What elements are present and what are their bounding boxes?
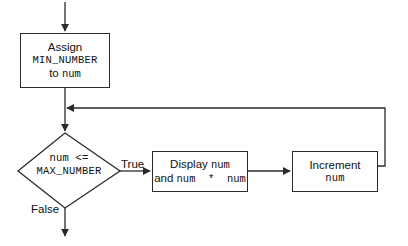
node-assign: Assign MIN_NUMBER to num [20,33,110,88]
node-increment: Increment num [292,151,378,192]
node-display-line2-mono: num * num [177,173,246,185]
edge-label-false: False [31,203,59,215]
decision-diamond [18,133,120,208]
node-assign-line2: MIN_NUMBER [32,54,97,66]
node-display-line1-mono: num [211,159,230,171]
node-display-line1-prefix: Display [170,158,211,170]
node-display: Display num and num * num [152,151,248,192]
node-display-line1: Display num [170,158,230,172]
node-assign-line1: Assign [48,41,83,55]
edge-label-true: True [121,158,144,170]
flowchart-canvas: Assign MIN_NUMBER to num num <= MAX_NUMB… [0,0,408,246]
node-display-line2-prefix: and [154,172,176,184]
node-display-line2: and num * num [154,172,246,186]
node-increment-line1: Increment [309,159,360,173]
node-assign-line3-prefix: to [49,67,62,79]
node-assign-line3: to num [49,67,81,81]
node-assign-line3-mono: num [62,68,81,80]
node-increment-line2: num [325,172,345,184]
